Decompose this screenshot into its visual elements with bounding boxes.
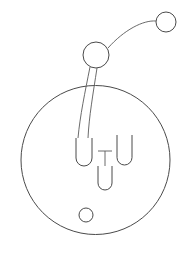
enclosure-circle [21, 86, 170, 235]
flask-right [117, 135, 132, 165]
diagram-svg: Line drawing of an enclosing circle with… [0, 0, 191, 259]
node-circle-main [83, 42, 109, 68]
flask-middle [98, 166, 112, 190]
tube-line-left [78, 67, 90, 138]
flask-left [76, 138, 92, 166]
diagram-canvas: Line drawing of an enclosing circle with… [0, 0, 191, 259]
arc-connector-to-small-node [108, 21, 156, 48]
node-circle-small [156, 12, 176, 32]
bottom-circle [79, 208, 93, 222]
tube-line-right [88, 68, 97, 138]
